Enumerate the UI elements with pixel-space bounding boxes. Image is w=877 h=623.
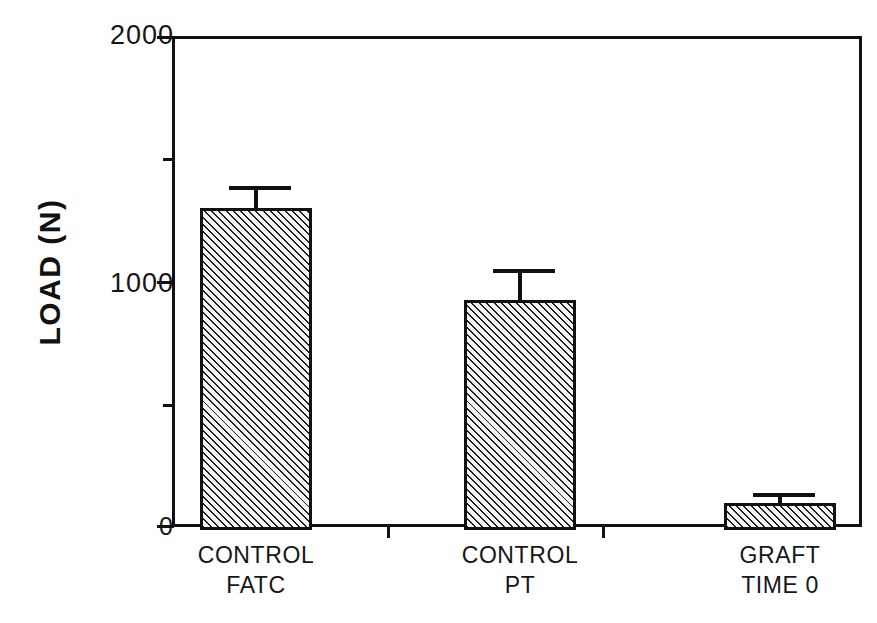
- x-tick-mark-1: [387, 525, 390, 538]
- x-category-label-control-pt: CONTROL PT: [430, 540, 610, 600]
- x-category-line1: GRAFT: [690, 540, 870, 570]
- x-category-line1: CONTROL: [430, 540, 610, 570]
- x-category-line1: CONTROL: [166, 540, 346, 570]
- x-category-label-control-fatc: CONTROL FATC: [166, 540, 346, 600]
- x-category-line2: PT: [430, 570, 610, 600]
- error-bar-cap-control-pt: [493, 269, 555, 273]
- x-tick-mark-2: [602, 525, 605, 538]
- error-bar-cap-graft-time-0: [753, 493, 815, 497]
- x-category-label-graft-time-0: GRAFT TIME 0: [690, 540, 870, 600]
- bar-control-pt: [464, 300, 576, 530]
- bar-chart: LOAD (N) 2000 1000 0 CONTROL FATC CONTRO…: [0, 0, 877, 623]
- x-category-line2: FATC: [166, 570, 346, 600]
- y-axis-title: LOAD (N): [33, 162, 67, 382]
- error-bar-stem-control-pt: [518, 271, 522, 302]
- error-bar-cap-control-fatc: [229, 186, 291, 190]
- error-bar-stem-control-fatc: [254, 188, 258, 210]
- x-category-line2: TIME 0: [690, 570, 870, 600]
- bar-control-fatc: [200, 208, 312, 530]
- bar-graft-time-0: [724, 503, 836, 530]
